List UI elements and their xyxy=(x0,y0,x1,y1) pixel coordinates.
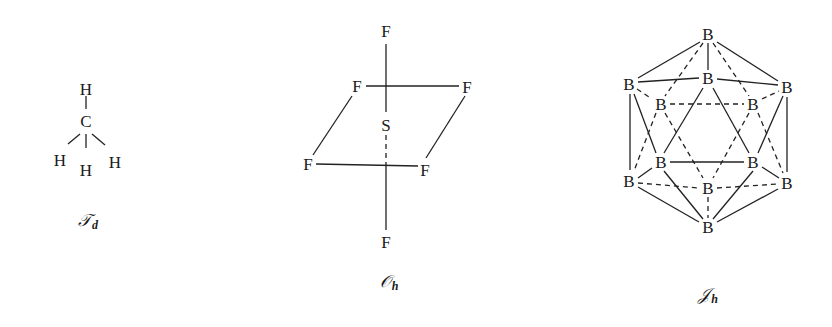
point-group-subscript: h xyxy=(711,292,718,306)
icosahedron-bonds xyxy=(0,0,832,327)
boron-atom-bottom: B xyxy=(702,219,713,236)
boron-atom-upper-right: B xyxy=(781,79,792,96)
boron-atom-lower-left: B xyxy=(623,173,634,190)
boron-atom-lower-right: B xyxy=(781,175,792,192)
boron-atom-lower-back-left: B xyxy=(655,154,666,171)
boron-atom-upper-back-left: B xyxy=(655,96,666,113)
boron-atom-upper-front: B xyxy=(702,70,713,87)
boron-atom-lower-back-right: B xyxy=(747,154,758,171)
boron-atom-top: B xyxy=(702,26,713,43)
boron-atom-lower-front: B xyxy=(702,180,713,197)
boron-atom-upper-left: B xyxy=(623,76,634,93)
point-group-symbol: 𝒥 xyxy=(698,285,710,304)
boron-atom-upper-back-right: B xyxy=(747,96,758,113)
point-group-ih-label: 𝒥h xyxy=(698,285,718,307)
